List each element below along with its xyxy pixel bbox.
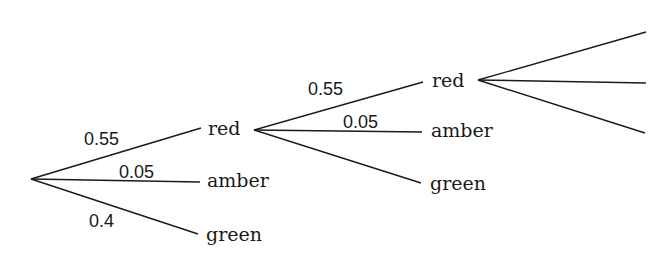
outcome-l2-green: green <box>430 174 486 193</box>
outcome-l1-amber: amber <box>207 171 269 190</box>
prob-l2-amber: 0.05 <box>343 113 378 131</box>
branch-l2-green <box>254 130 421 183</box>
outcome-l2-amber: amber <box>431 121 493 140</box>
outcome-l2-red: red <box>432 71 465 90</box>
branch-l1-green <box>31 179 198 234</box>
prob-l2-red: 0.55 <box>308 80 343 98</box>
outcome-l1-green: green <box>206 225 262 244</box>
branch-l1-amber <box>31 179 200 182</box>
branch-l2-amber <box>254 130 422 132</box>
prob-l1-green: 0.4 <box>89 212 114 230</box>
branch-l3-middle <box>478 80 646 83</box>
outcome-l1-red: red <box>208 119 241 138</box>
branch-l3-bottom <box>478 80 645 133</box>
prob-l1-red: 0.55 <box>84 130 119 148</box>
prob-l1-amber: 0.05 <box>119 163 154 181</box>
branch-l3-top <box>478 32 646 80</box>
